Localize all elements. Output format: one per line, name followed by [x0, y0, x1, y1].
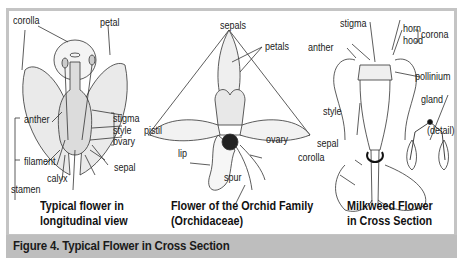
figure-caption: Figure 4. Typical Flower in Cross Sectio…	[13, 239, 230, 253]
label-style-milkweed: style	[323, 106, 342, 117]
label-sepal-milkweed: sepal	[317, 138, 339, 149]
label-stigma: stigma	[113, 113, 140, 124]
label-anther-milkweed: anther	[308, 42, 334, 53]
label-petal: petal	[100, 17, 120, 28]
title-line: in Cross Section	[347, 214, 433, 229]
label-ovary: ovary	[113, 136, 135, 147]
title-line: Typical flower in	[40, 199, 128, 214]
label-style: style	[113, 125, 132, 136]
label-anther: anther	[24, 114, 50, 125]
label-corona: corona	[421, 29, 449, 40]
label-corolla: corolla	[13, 15, 40, 26]
label-ovary-orchid: ovary	[266, 134, 288, 145]
title-line: Milkweed Flower	[347, 199, 433, 214]
label-pollinium: pollinium	[415, 71, 451, 82]
typical-flower-drawing	[15, 25, 127, 200]
label-spur: spur	[224, 172, 242, 183]
panel-title-orchid: Flower of the Orchid Family (Orchidaceae…	[171, 199, 313, 229]
label-detail: (detail)	[427, 125, 455, 136]
panel-title-milkweed: Milkweed Flower in Cross Section	[347, 199, 433, 229]
label-sepal: sepal	[114, 162, 136, 173]
title-line: longitudinal view	[40, 214, 128, 229]
label-corolla-milkweed: corolla	[298, 152, 325, 163]
label-petals: petals	[265, 41, 289, 52]
milkweed-drawing	[334, 20, 449, 211]
label-stigma-milkweed: stigma	[340, 18, 367, 29]
label-filament: filament	[24, 156, 56, 167]
title-line: Flower of the Orchid Family	[171, 199, 313, 214]
panel-title-typical: Typical flower in longitudinal view	[40, 199, 128, 229]
title-line: (Orchidaceae)	[171, 214, 313, 229]
label-calyx: calyx	[47, 173, 68, 184]
label-lip: lip	[178, 148, 187, 159]
label-pistil: pistil	[144, 125, 162, 136]
label-stamen: stamen	[11, 184, 41, 195]
label-sepals: sepals	[220, 20, 246, 31]
label-horn: horn	[403, 23, 421, 34]
caption-bar: Figure 4. Typical Flower in Cross Sectio…	[6, 235, 457, 258]
label-gland: gland	[421, 94, 443, 105]
